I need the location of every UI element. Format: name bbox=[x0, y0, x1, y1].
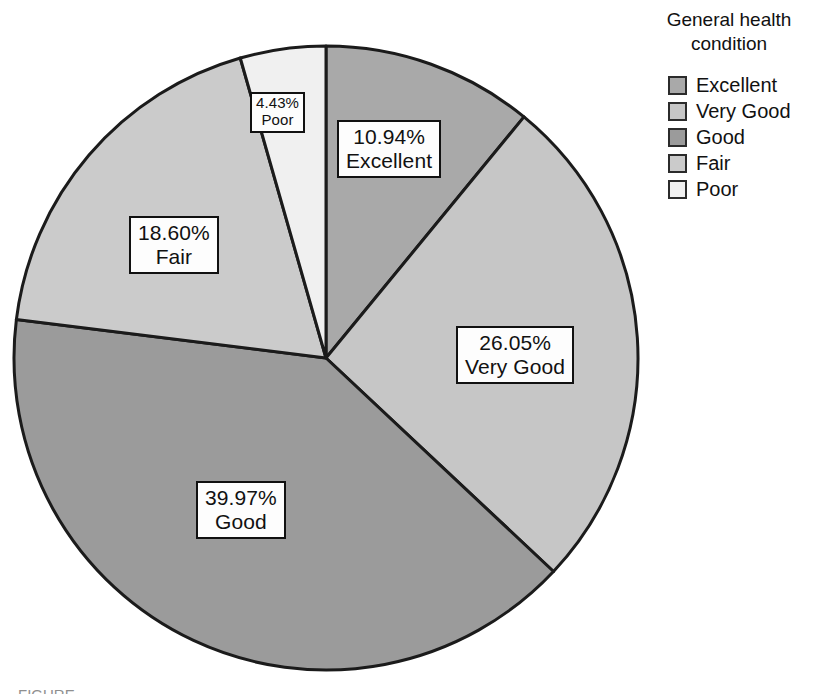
slice-percent-very-good: 26.05% bbox=[465, 331, 565, 355]
legend-item: Poor bbox=[668, 177, 824, 202]
slice-label-fair: 18.60% Fair bbox=[129, 216, 219, 274]
slice-percent-poor: 4.43% bbox=[256, 95, 299, 112]
pie-plot-area: 10.94% Excellent 26.05% Very Good 39.97%… bbox=[0, 0, 660, 694]
slice-percent-excellent: 10.94% bbox=[346, 125, 432, 149]
legend-item: Excellent bbox=[668, 73, 824, 98]
slice-percent-fair: 18.60% bbox=[138, 221, 210, 245]
pie-chart-figure: 10.94% Excellent 26.05% Very Good 39.97%… bbox=[0, 0, 827, 694]
legend-swatch-icon bbox=[668, 180, 687, 199]
slice-label-good: 39.97% Good bbox=[196, 481, 286, 539]
slice-label-excellent: 10.94% Excellent bbox=[337, 120, 441, 178]
legend-item-label: Fair bbox=[696, 153, 730, 173]
slice-category-poor: Poor bbox=[256, 112, 299, 129]
caption-sliver: FIGURE bbox=[18, 686, 318, 694]
slice-label-poor: 4.43% Poor bbox=[250, 92, 305, 133]
legend-title-line-2: condition bbox=[691, 33, 767, 54]
legend-swatch-icon bbox=[668, 76, 687, 95]
legend-swatch-icon bbox=[668, 154, 687, 173]
legend-swatch-icon bbox=[668, 128, 687, 147]
slice-percent-good: 39.97% bbox=[205, 486, 277, 510]
slice-category-fair: Fair bbox=[138, 245, 210, 269]
slice-label-very-good: 26.05% Very Good bbox=[456, 326, 574, 384]
legend-title: General health condition bbox=[634, 8, 824, 57]
legend-item-label: Excellent bbox=[696, 75, 777, 95]
legend-item-label: Poor bbox=[696, 179, 738, 199]
legend-item-label: Very Good bbox=[696, 101, 791, 121]
slice-category-good: Good bbox=[205, 510, 277, 534]
legend-item: Good bbox=[668, 125, 824, 150]
legend-item: Fair bbox=[668, 151, 824, 176]
legend-item-label: Good bbox=[696, 127, 745, 147]
legend-item: Very Good bbox=[668, 99, 824, 124]
legend-item-list: ExcellentVery GoodGoodFairPoor bbox=[634, 73, 824, 202]
legend-swatch-icon bbox=[668, 102, 687, 121]
slice-category-very-good: Very Good bbox=[465, 355, 565, 379]
legend-title-line-1: General health bbox=[667, 9, 792, 30]
slice-category-excellent: Excellent bbox=[346, 149, 432, 173]
legend: General health condition ExcellentVery G… bbox=[634, 8, 824, 203]
